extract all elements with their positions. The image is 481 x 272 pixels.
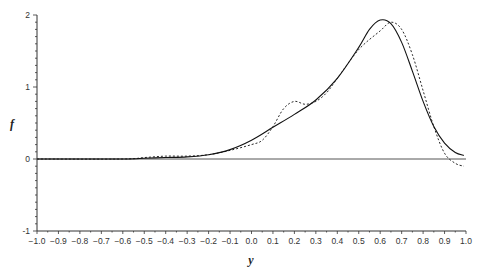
x-tick-label: 0.8: [417, 236, 429, 246]
x-axis-label: y: [246, 253, 254, 267]
x-tick-label: 0.7: [396, 236, 408, 246]
x-tick-label: 0.6: [374, 236, 386, 246]
y-tick-label: 0: [25, 154, 30, 164]
x-tick-label: −0.5: [136, 236, 153, 246]
series-dashed-line: [37, 22, 464, 166]
plot-area: [37, 20, 466, 167]
x-tick-label: −0.1: [222, 236, 239, 246]
y-axis-label: f: [10, 117, 15, 131]
y-axis: -1012: [22, 10, 37, 236]
y-tick-label: 2: [25, 10, 30, 20]
x-tick-label: 0.4: [331, 236, 343, 246]
x-tick-label: −1.0: [29, 236, 46, 246]
x-tick-label: 0.1: [267, 236, 279, 246]
x-tick-label: −0.8: [72, 236, 89, 246]
y-tick-label: -1: [22, 226, 30, 236]
line-chart: -1012 −1.0−0.9−0.8−0.7−0.6−0.5−0.4−0.3−0…: [0, 0, 481, 272]
x-tick-label: 0.2: [288, 236, 300, 246]
x-tick-label: 0.0: [246, 236, 258, 246]
x-tick-label: 1.0: [460, 236, 472, 246]
y-tick-label: 1: [25, 82, 30, 92]
x-tick-label: −0.6: [114, 236, 131, 246]
x-tick-label: −0.4: [157, 236, 174, 246]
x-tick-label: −0.9: [50, 236, 67, 246]
x-tick-label: −0.3: [179, 236, 196, 246]
x-tick-label: 0.9: [439, 236, 451, 246]
series-solid-line: [37, 20, 464, 159]
x-tick-label: 0.3: [310, 236, 322, 246]
x-tick-label: 0.5: [353, 236, 365, 246]
x-axis: −1.0−0.9−0.8−0.7−0.6−0.5−0.4−0.3−0.2−0.1…: [29, 231, 473, 246]
x-tick-label: −0.7: [93, 236, 110, 246]
x-tick-label: −0.2: [200, 236, 217, 246]
